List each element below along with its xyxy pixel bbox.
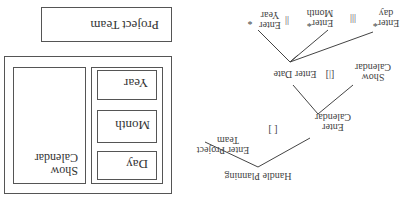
operator-alternative: [|] xyxy=(326,70,335,80)
tree-connectors xyxy=(0,0,408,200)
node-enter-day-line1: Enter* xyxy=(373,18,400,28)
node-enter-calendar-line2: Calendar xyxy=(315,112,351,122)
node-enter-month-line2: Month xyxy=(307,8,334,18)
node-enter-day-line2: day xyxy=(379,8,393,18)
node-enter-calendar-line1: Enter xyxy=(322,122,344,132)
operator-concurrent-1: ||| xyxy=(350,14,356,24)
operator-sequence: [ ] xyxy=(268,125,277,135)
iteration-star: * xyxy=(248,16,253,26)
node-enter-year-line2: Year xyxy=(261,10,279,20)
node-enter-year-line1: Enter xyxy=(259,20,281,30)
node-show-calendar-line1: Show xyxy=(362,72,385,82)
diagram-canvas: Project Team Day Month Year Show Calenda… xyxy=(0,0,408,200)
node-show-calendar-line2: Calendar xyxy=(355,62,391,72)
node-enter-month-line1: Enter* xyxy=(307,18,334,28)
operator-concurrent-2: || xyxy=(285,16,289,26)
node-handle-planning: Handle Planning xyxy=(225,171,292,181)
node-enter-project-team-line2: Team xyxy=(217,135,239,145)
node-enter-project-team-line1: Enter Project xyxy=(197,145,249,155)
node-enter-date: Enter Date xyxy=(273,69,316,79)
